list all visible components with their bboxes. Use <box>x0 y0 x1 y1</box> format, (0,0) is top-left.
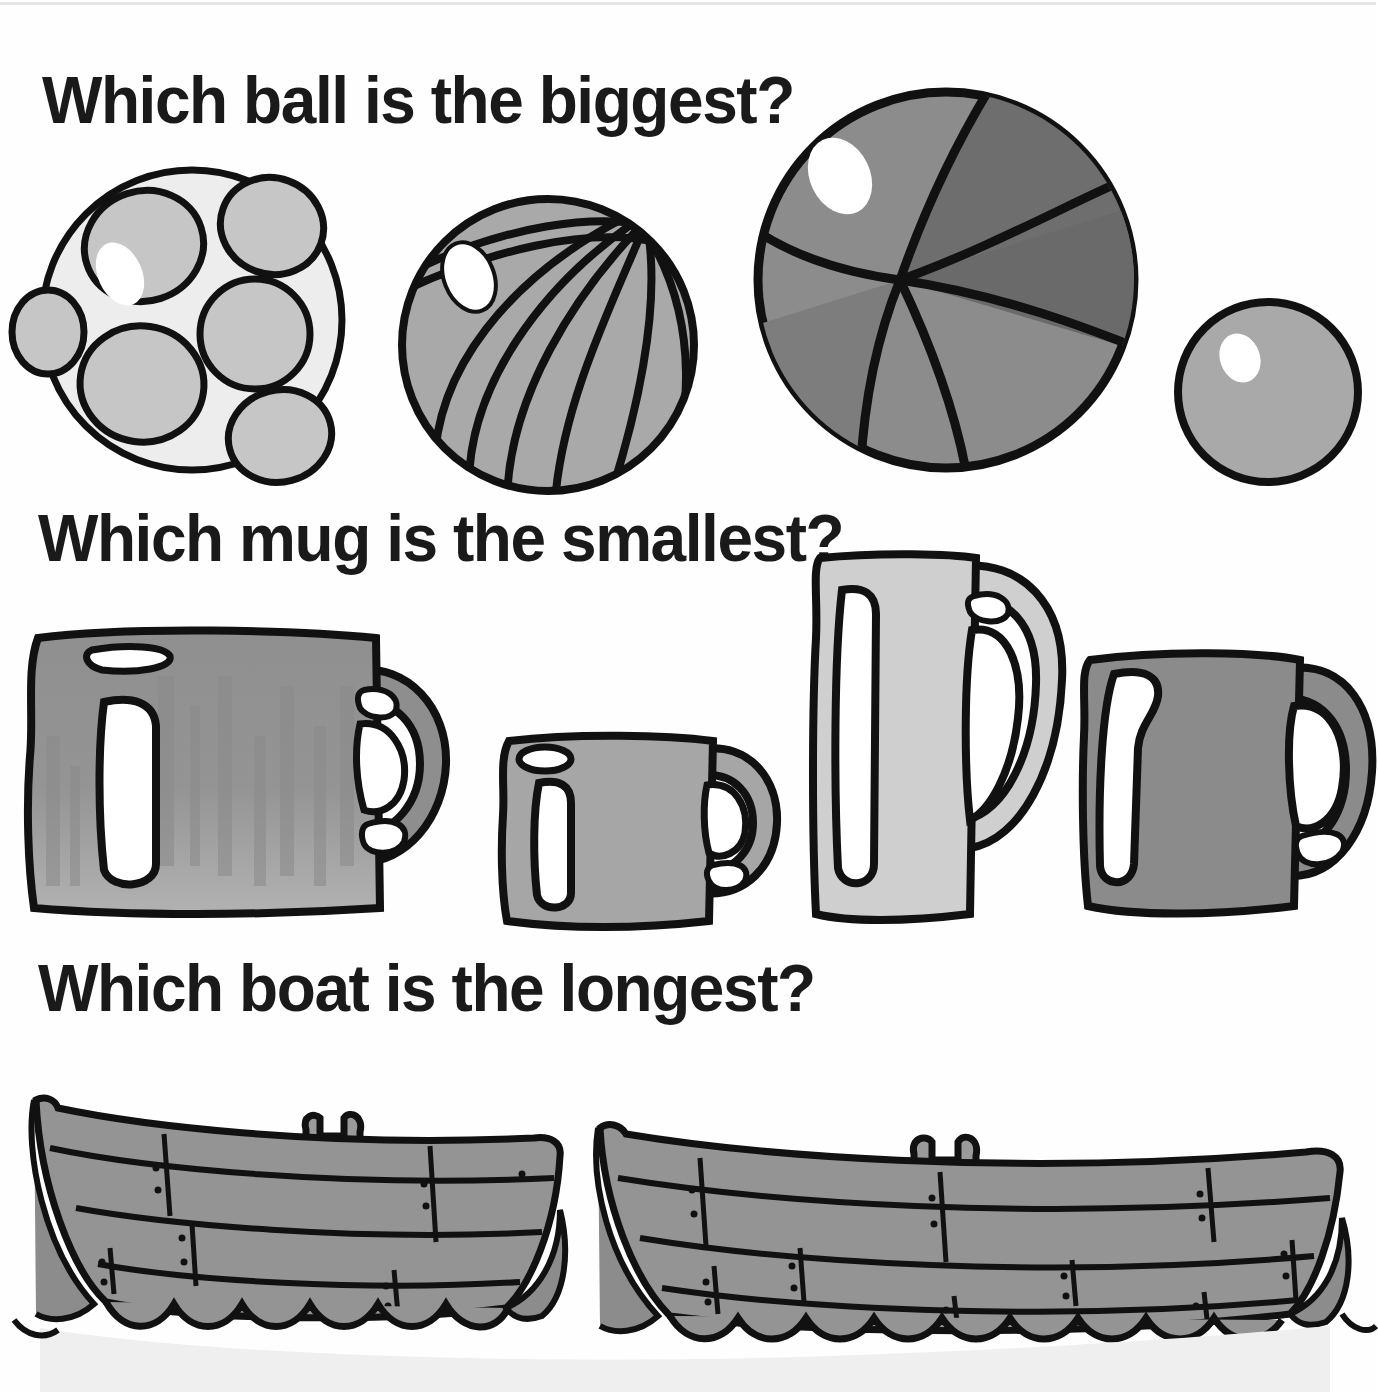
mug-body-highlight <box>534 782 571 908</box>
striped-beach-ball[interactable] <box>397 194 703 500</box>
question-ball: Which ball is the biggest? <box>42 62 794 138</box>
medium-mug[interactable] <box>1058 638 1378 928</box>
small-plain-ball[interactable] <box>1172 296 1364 488</box>
big-beach-ball[interactable] <box>750 84 1142 476</box>
question-mug: Which mug is the smallest? <box>38 500 843 576</box>
water <box>0 1308 1376 1392</box>
tall-mug[interactable] <box>784 548 1080 936</box>
mug-body-highlight <box>100 700 157 885</box>
mug-body <box>28 630 380 914</box>
mug-rim-highlight <box>87 647 171 672</box>
small-mug[interactable] <box>487 725 787 937</box>
scan-edge-artifact <box>0 2 1376 5</box>
polka-dot-ball[interactable] <box>36 164 348 476</box>
large-mug[interactable] <box>8 616 458 926</box>
question-boat: Which boat is the longest? <box>38 950 815 1026</box>
mug-body-highlight <box>835 589 876 883</box>
mug-rim-highlight <box>519 747 571 771</box>
